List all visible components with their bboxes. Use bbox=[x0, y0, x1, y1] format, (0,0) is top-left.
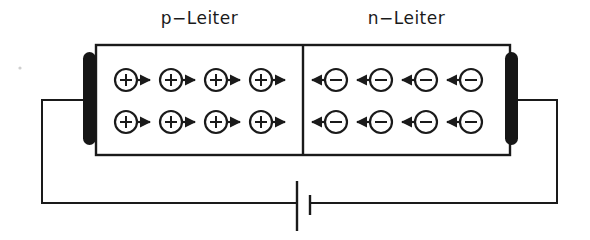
diagram-canvas bbox=[0, 0, 590, 240]
right-electrode bbox=[505, 52, 518, 145]
scan-speck bbox=[18, 66, 21, 69]
semiconductor-body bbox=[96, 45, 510, 155]
battery-cell bbox=[297, 181, 310, 231]
left-electrode bbox=[83, 52, 96, 145]
semiconductor-pn-diagram: p−Leiter n−Leiter bbox=[0, 0, 590, 240]
